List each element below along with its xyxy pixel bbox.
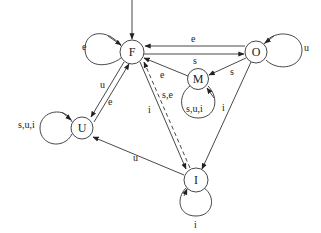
edge-label-M-to-F: e: [160, 69, 165, 80]
edge-O-loop: u: [264, 34, 309, 67]
edge-label-U-loop: s,u,i: [18, 119, 35, 130]
node-O: O: [245, 41, 267, 63]
edge-label-O-to-I: i: [222, 102, 225, 113]
edge-label-U-to-F: e: [108, 96, 113, 107]
node-label-O: O: [252, 45, 261, 59]
node-I: I: [184, 168, 208, 192]
node-label-I: I: [194, 173, 198, 187]
edge-I-loop: i: [180, 188, 212, 230]
node-label-M: M: [193, 72, 204, 86]
edge-label-I-loop: i: [194, 219, 197, 230]
edge-O-to-F: e: [145, 33, 245, 46]
edge-label-O-loop: u: [304, 42, 309, 53]
node-label-U: U: [78, 121, 87, 135]
state-diagram: e e s s e s,u,i u u e: [0, 0, 321, 233]
edge-label-F-to-O: s: [193, 55, 197, 66]
edge-label-I-to-U: u: [133, 152, 138, 163]
edge-I-to-U: u: [93, 137, 184, 175]
edge-M-loop: s,u,i: [182, 86, 215, 118]
node-label-F: F: [129, 45, 136, 59]
edge-label-M-loop: s,u,i: [186, 103, 203, 114]
node-M: M: [188, 69, 209, 90]
edge-I-to-F: s,e: [144, 62, 190, 168]
edge-O-to-I: i: [202, 62, 251, 169]
node-U: U: [71, 117, 93, 139]
edge-U-loop: s,u,i: [18, 112, 72, 144]
edge-U-to-F: e: [94, 64, 129, 122]
edge-label-I-to-F: s,e: [162, 89, 173, 100]
edge-label-F-to-U: u: [100, 79, 105, 90]
edge-label-O-to-F: e: [191, 33, 196, 44]
node-F: F: [120, 40, 144, 64]
edge-O-to-M: s: [209, 58, 246, 77]
edge-label-F-loop: e: [82, 41, 87, 52]
edge-F-loop: e: [82, 34, 121, 65]
edge-F-to-U: u: [91, 62, 124, 117]
edge-label-O-to-M: s: [230, 66, 234, 77]
edge-label-F-to-I: i: [148, 104, 151, 115]
